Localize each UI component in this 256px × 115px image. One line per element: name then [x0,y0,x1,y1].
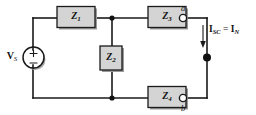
junction-dot-top-mid [109,15,114,20]
junction-dot-bottom-mid [109,95,114,100]
terminal-a-label: a [181,4,185,13]
voltage-source [23,47,46,70]
impedance-z2-label: Z2 [106,52,116,64]
circuit-diagram: VS Z1 Z2 Z3 Z4 a b ISC = IN [0,0,256,115]
source-label: VS [7,51,18,63]
impedance-z3-label: Z3 [162,11,172,23]
junction-dot-short-circuit [203,54,211,62]
impedance-z1-label: Z1 [71,11,81,23]
current-arrow-icon [200,25,206,48]
terminal-b-label: b [181,104,185,113]
terminal-a-marker[interactable] [179,14,186,21]
short-circuit-current-label: ISC = IN [209,25,239,35]
impedance-z4-label: Z4 [162,91,172,103]
terminal-b-marker[interactable] [179,94,186,101]
circuit-schematic-canvas [0,0,256,115]
